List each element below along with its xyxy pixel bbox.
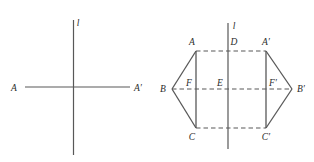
right-label-l: l xyxy=(233,21,236,31)
right-label-B: B xyxy=(160,84,166,94)
right-label-D: D xyxy=(230,37,238,47)
segment-BC xyxy=(172,89,196,128)
right-diagram: l A D A′ B F E F′ B′ C C′ xyxy=(160,21,306,149)
segment-B-prime-C-prime xyxy=(266,89,292,128)
left-label-A: A xyxy=(10,83,17,93)
right-label-F-prime: F′ xyxy=(268,78,278,88)
left-label-l: l xyxy=(77,18,80,28)
right-label-B-prime: B′ xyxy=(297,84,306,94)
left-diagram: l A A′ xyxy=(10,18,143,155)
figure-canvas: l A A′ l A D A′ B F E xyxy=(0,0,314,162)
right-label-C: C xyxy=(189,132,196,142)
right-label-E: E xyxy=(216,78,223,88)
right-label-A: A xyxy=(188,37,195,47)
geometry-figure-screenshot: l A A′ l A D A′ B F E xyxy=(0,0,314,162)
right-label-C-prime: C′ xyxy=(262,132,271,142)
right-label-F: F xyxy=(185,78,192,88)
left-label-A-prime: A′ xyxy=(133,83,143,93)
segment-AB xyxy=(172,51,196,89)
right-label-A-prime: A′ xyxy=(261,37,271,47)
